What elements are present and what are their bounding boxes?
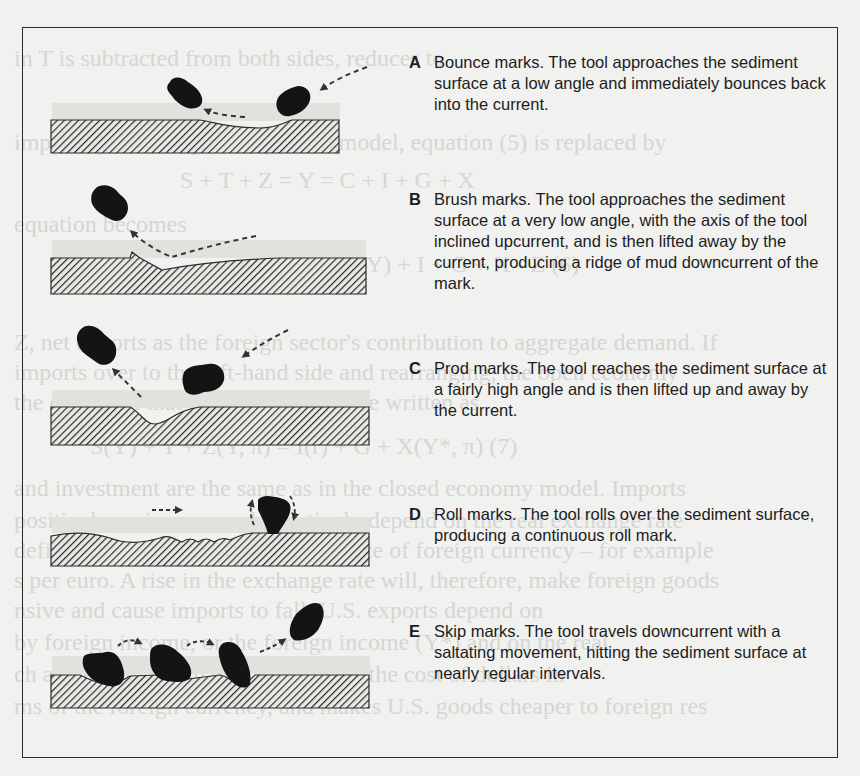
panel-b-illustration (51, 185, 366, 294)
panel-d-illustration (51, 496, 370, 566)
panel-letter: E (409, 621, 429, 642)
water-layer (52, 240, 366, 258)
tool-icon (91, 185, 128, 221)
panel-letter: B (409, 189, 429, 210)
panel-c-illustration (51, 326, 370, 445)
sediment-bed-icon (51, 533, 369, 566)
tool-icon (183, 364, 225, 395)
arrow-icon (118, 640, 140, 646)
caption-b: B Brush marks. The tool approaches the s… (409, 189, 829, 294)
caption-e: E Skip marks. The tool travels downcurre… (409, 621, 829, 684)
panel-description: Skip marks. The tool travels downcurrent… (434, 621, 829, 684)
panel-description: Roll marks. The tool rolls over the sedi… (434, 504, 829, 546)
arrow-icon (244, 330, 288, 356)
panel-description: Prod marks. The tool reaches the sedimen… (434, 358, 829, 421)
arrow-icon (322, 67, 367, 89)
panel-e-illustration (51, 603, 370, 708)
panel-description: Brush marks. The tool approaches the sed… (434, 189, 829, 294)
sediment-bed-icon (51, 407, 369, 445)
panel-letter: D (409, 504, 429, 525)
tool-icon (77, 326, 116, 365)
caption-a: A Bounce marks. The tool approaches the … (409, 52, 829, 115)
panel-a-illustration (51, 67, 367, 153)
arrow-icon (187, 641, 212, 646)
panel-letter: A (409, 52, 429, 73)
tool-icon (290, 603, 324, 641)
caption-c: C Prod marks. The tool reaches the sedim… (409, 358, 829, 421)
water-layer (52, 390, 370, 408)
arrow-icon (260, 640, 284, 652)
sediment-bed-icon (51, 120, 339, 153)
sediment-bed-icon (51, 252, 366, 294)
panel-description: Bounce marks. The tool approaches the se… (434, 52, 829, 115)
arrow-icon (290, 496, 295, 518)
caption-d: D Roll marks. The tool rolls over the se… (409, 504, 829, 546)
panel-letter: C (409, 358, 429, 379)
water-layer (52, 517, 370, 533)
